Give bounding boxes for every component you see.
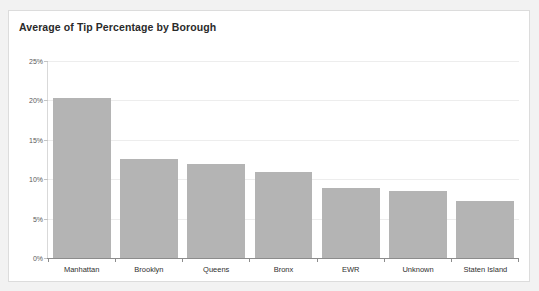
y-axis-tick-label: 25% [29, 58, 43, 65]
bar[interactable] [187, 164, 245, 258]
bar[interactable] [53, 98, 111, 258]
x-axis-tick-label: Manhattan [48, 265, 115, 274]
x-axis-tick [518, 258, 519, 262]
bar-slot [384, 61, 451, 258]
y-axis-tick-label: 10% [29, 176, 43, 183]
x-axis-tick [115, 258, 116, 262]
bar[interactable] [389, 191, 447, 258]
x-axis-tick-label: Unknown [384, 265, 451, 274]
bar-slot [452, 61, 519, 258]
y-axis-tick-label: 15% [29, 136, 43, 143]
y-axis-tick-label: 5% [33, 215, 43, 222]
plot-area: 0%5%10%15%20%25% [48, 61, 519, 258]
x-axis-category: Staten Island [452, 258, 519, 282]
x-axis-category: Bronx [250, 258, 317, 282]
x-axis-category: Unknown [384, 258, 451, 282]
bar-slot [250, 61, 317, 258]
x-axis-tick [182, 258, 183, 262]
bar-slot [115, 61, 182, 258]
screenshot-root: Average of Tip Percentage by Borough 0%5… [0, 0, 539, 291]
x-axis-tick [384, 258, 385, 262]
x-axis-tick [317, 258, 318, 262]
bar-slot [183, 61, 250, 258]
x-axis-tick-label: Brooklyn [115, 265, 182, 274]
x-axis-category: Queens [183, 258, 250, 282]
x-axis-category: Manhattan [48, 258, 115, 282]
bar-slot [317, 61, 384, 258]
x-axis-labels: ManhattanBrooklynQueensBronxEWRUnknownSt… [48, 258, 519, 282]
bar[interactable] [255, 172, 313, 258]
x-axis-tick-label: Staten Island [452, 265, 519, 274]
bar-series [48, 61, 519, 258]
x-axis-tick-label: EWR [317, 265, 384, 274]
chart-card: Average of Tip Percentage by Borough 0%5… [8, 10, 530, 282]
bar[interactable] [322, 188, 380, 258]
x-axis-tick-label: Bronx [250, 265, 317, 274]
x-axis-category: EWR [317, 258, 384, 282]
y-axis-tick-label: 20% [29, 97, 43, 104]
bar[interactable] [456, 201, 514, 258]
x-axis-tick [249, 258, 250, 262]
bar-slot [48, 61, 115, 258]
chart-title: Average of Tip Percentage by Borough [19, 21, 216, 33]
y-axis-tick-label: 0% [33, 255, 43, 262]
x-axis-tick [48, 258, 49, 262]
x-axis-tick-label: Queens [183, 265, 250, 274]
x-axis-tick [451, 258, 452, 262]
x-axis-category: Brooklyn [115, 258, 182, 282]
bar[interactable] [120, 159, 178, 258]
